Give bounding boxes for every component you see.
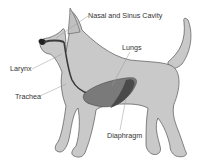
dog-illustration <box>0 0 197 168</box>
dog-tail <box>168 18 191 69</box>
label-nasal-sinus-cavity: Nasal and Sinus Cavity <box>88 12 162 19</box>
label-diaphragm: Diaphragm <box>107 132 142 139</box>
label-trachea: Trachea <box>15 93 41 100</box>
dog-respiratory-diagram: Nasal and Sinus Cavity Lungs Larynx Trac… <box>0 0 197 168</box>
label-lungs: Lungs <box>122 44 142 51</box>
label-larynx: Larynx <box>10 65 32 72</box>
